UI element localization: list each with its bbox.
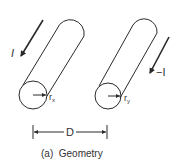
radius-x-label: rx (49, 92, 55, 103)
conductor-x-body (23, 20, 84, 96)
current-x-arrow-icon (21, 20, 43, 56)
current-y-label: −I (156, 66, 165, 78)
radius-y-label: ry (124, 93, 130, 104)
figure-caption: (a) Geometry (41, 148, 103, 159)
current-x-label: I (11, 47, 14, 59)
spacing-label: D (66, 126, 74, 138)
geometry-diagram: I −I rx ry D (a) Geometry (0, 0, 196, 161)
conductor-y-body (99, 19, 157, 98)
